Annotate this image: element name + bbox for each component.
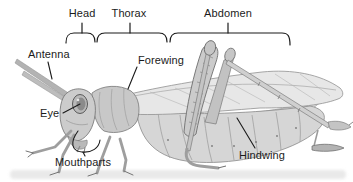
head-drawing [60, 89, 95, 153]
hindwing-label: Hindwing [239, 149, 285, 161]
forewing-leader-line [128, 67, 137, 89]
mouthparts-label: Mouthparts [55, 156, 111, 168]
antenna-label: Antenna [28, 48, 70, 60]
thorax-bracket [97, 23, 167, 42]
grasshopper-illustration [0, 0, 353, 182]
thorax-drawing [92, 86, 139, 132]
head-label: Head [69, 7, 96, 19]
thorax-label: Thorax [112, 7, 147, 19]
abdomen-bracket [170, 23, 290, 45]
forewing-label: Forewing [138, 54, 184, 66]
head-bracket [66, 23, 95, 43]
antenna-leader-line [48, 62, 52, 79]
region-brackets [66, 23, 290, 45]
eye-label: Eye [40, 107, 59, 119]
abdomen-label: Abdomen [204, 7, 252, 19]
grasshopper-anatomy-diagram: Head Thorax Abdomen Antenna Forewing Eye… [0, 0, 353, 182]
